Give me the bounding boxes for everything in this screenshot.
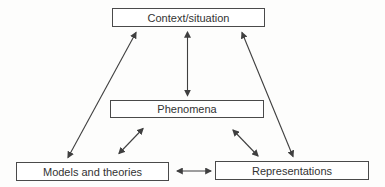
node-representations: Representations <box>215 161 369 180</box>
node-context-situation: Context/situation <box>112 8 265 27</box>
arrows-layer <box>0 0 385 187</box>
arrow-phenomena-representations <box>233 130 258 156</box>
arrow-phenomena-models <box>119 129 143 154</box>
node-representations-label: Representations <box>252 165 332 177</box>
diagram-canvas: Context/situation Phenomena Models and t… <box>0 0 385 187</box>
node-context-situation-label: Context/situation <box>148 12 230 24</box>
arrow-context-representations <box>242 33 293 157</box>
arrow-context-models <box>68 33 136 158</box>
node-phenomena: Phenomena <box>110 100 264 118</box>
node-models-and-theories-label: Models and theories <box>43 166 142 178</box>
node-phenomena-label: Phenomena <box>157 103 216 115</box>
node-models-and-theories: Models and theories <box>16 162 169 181</box>
